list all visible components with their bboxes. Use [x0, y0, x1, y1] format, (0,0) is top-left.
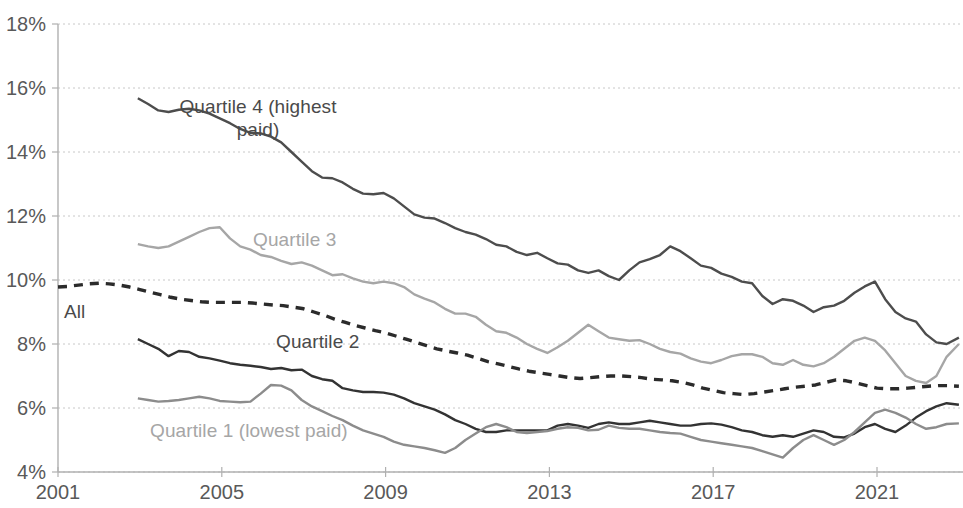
y-tick-label: 18%: [6, 14, 46, 34]
x-tick-label: 2009: [336, 482, 436, 502]
x-tick-label: 2005: [172, 482, 272, 502]
y-tick-label: 6%: [17, 398, 46, 418]
y-tick-label: 16%: [6, 78, 46, 98]
x-tick-label: 2013: [499, 482, 599, 502]
y-tick-label: 4%: [17, 462, 46, 482]
chart-plot-area: [0, 0, 963, 508]
y-tick-label: 14%: [6, 142, 46, 162]
label-quartile-2: Quartile 2: [276, 330, 359, 353]
label-quartile-1: Quartile 1 (lowest paid): [150, 419, 348, 442]
y-tick-label: 12%: [6, 206, 46, 226]
y-tick-label: 8%: [17, 334, 46, 354]
label-quartile-4: Quartile 4 (highest paid): [158, 95, 358, 141]
x-tick-label: 2021: [827, 482, 927, 502]
x-tick-label: 2001: [8, 482, 108, 502]
label-all: All: [64, 300, 85, 323]
x-tick-label: 2017: [663, 482, 763, 502]
y-tick-label: 10%: [6, 270, 46, 290]
chart-container: 18%16%14%12%10%8%6%4% 200120052009201320…: [0, 0, 963, 508]
series-line-all: [58, 283, 959, 394]
label-quartile-3: Quartile 3: [253, 228, 336, 251]
